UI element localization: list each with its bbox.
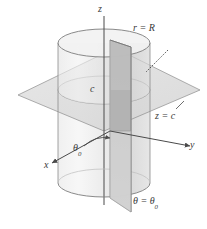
z-equals-c-leader-line: [176, 101, 184, 109]
z-axis-label: z: [98, 4, 102, 14]
horizontal-plane-label: z = c: [155, 111, 175, 121]
theta0-subscript: 0: [78, 150, 81, 157]
figure-canvas: [0, 0, 207, 229]
x-axis-label: x: [44, 160, 48, 170]
halfplane-equation: θ = θ: [133, 195, 155, 206]
cylinder-surface-label: r = R: [133, 23, 155, 33]
halfplane-lower-tail: [110, 131, 131, 212]
vertical-halfplane-theta-equals-theta0: [110, 40, 131, 212]
y-axis-label: y: [190, 140, 194, 150]
halfplane-plane-intersection: [110, 90, 131, 131]
height-c-label: c: [90, 84, 94, 94]
theta0-angle-label: θ0: [73, 143, 81, 156]
halfplane-label: θ = θ0: [133, 196, 158, 209]
cylindrical-coordinates-figure: z r = R z = c y x c θ0 θ = θ0: [0, 0, 207, 229]
halfplane-subscript: 0: [155, 203, 158, 210]
